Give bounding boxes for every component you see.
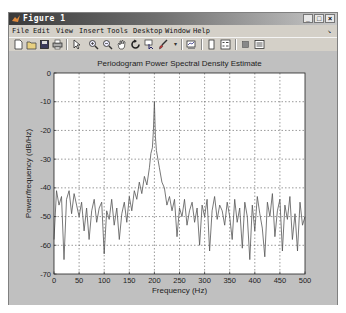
menu-desktop[interactable]: Desktop — [133, 26, 163, 36]
x-tick-label: 350 — [223, 276, 236, 285]
y-tick-label: -20 — [40, 126, 51, 135]
title-bar[interactable]: Figure 1 _ □ × — [9, 13, 337, 25]
window-controls: _ □ × — [303, 14, 335, 23]
chart-title: Periodogram Power Spectral Density Estim… — [97, 59, 262, 68]
y-axis-label: Power/frequency (dB/Hz) — [24, 128, 33, 218]
figure-window: Figure 1 _ □ × File Edit View Insert Too… — [8, 12, 338, 305]
figure-canvas: 0501001502002503003504004505000-10-20-30… — [9, 51, 337, 305]
y-tick-label: 0 — [47, 69, 51, 78]
save-disk-icon[interactable] — [39, 39, 50, 50]
window-title: Figure 1 — [23, 13, 66, 25]
x-tick-label: 400 — [249, 276, 262, 285]
axes-background[interactable] — [54, 73, 305, 274]
menu-bar: File Edit View Insert Tools Desktop Wind… — [9, 26, 337, 36]
x-tick-label: 500 — [299, 276, 312, 285]
link-plot-icon[interactable] — [186, 39, 197, 50]
minimize-button[interactable]: _ — [303, 14, 313, 23]
hand-icon[interactable] — [116, 39, 127, 50]
dock-figure-button[interactable]: ↘ — [327, 26, 331, 36]
zoom-in-icon[interactable] — [88, 39, 99, 50]
colorbar-icon[interactable] — [206, 39, 217, 50]
matlab-logo-icon — [12, 15, 20, 23]
menu-tools[interactable]: Tools — [107, 26, 128, 36]
close-button[interactable]: × — [325, 14, 335, 23]
menu-insert[interactable]: Insert — [79, 26, 104, 36]
maximize-button[interactable]: □ — [314, 14, 324, 23]
y-tick-label: -70 — [40, 270, 51, 279]
menu-help[interactable]: Help — [193, 26, 210, 36]
show-tools-icon[interactable] — [254, 39, 265, 50]
arrow-pointer-icon[interactable] — [71, 39, 82, 50]
x-tick-label: 150 — [123, 276, 136, 285]
brush-icon[interactable] — [158, 39, 169, 50]
x-tick-label: 200 — [148, 276, 161, 285]
x-axis-label: Frequency (Hz) — [152, 286, 207, 295]
y-tick-label: -10 — [40, 97, 51, 106]
toolbar-separator — [66, 39, 68, 50]
rotate-icon[interactable] — [130, 39, 141, 50]
toolbar-separator — [201, 39, 203, 50]
x-tick-label: 300 — [198, 276, 211, 285]
menu-file[interactable]: File — [12, 26, 29, 36]
hide-tools-icon[interactable] — [240, 39, 251, 50]
zoom-out-icon[interactable] — [102, 39, 113, 50]
figure-toolbar: ▾ — [9, 37, 337, 52]
x-tick-label: 0 — [52, 276, 56, 285]
menu-view[interactable]: View — [56, 26, 73, 36]
psd-chart[interactable]: 0501001502002503003504004505000-10-20-30… — [9, 51, 337, 305]
menu-window[interactable]: Window — [165, 26, 190, 36]
menu-edit[interactable]: Edit — [33, 26, 50, 36]
x-tick-label: 450 — [274, 276, 287, 285]
toolbar-separator — [181, 39, 183, 50]
open-folder-icon[interactable] — [26, 39, 37, 50]
new-file-icon[interactable] — [13, 39, 24, 50]
toolbar-separator — [235, 39, 237, 50]
x-tick-label: 250 — [173, 276, 186, 285]
y-tick-label: -40 — [40, 183, 51, 192]
y-tick-label: -30 — [40, 155, 51, 164]
printer-icon[interactable] — [52, 39, 63, 50]
x-tick-label: 100 — [98, 276, 111, 285]
data-cursor-icon[interactable] — [144, 39, 155, 50]
y-tick-label: -50 — [40, 212, 51, 221]
brush-dropdown-arrow-icon[interactable]: ▾ — [170, 39, 181, 50]
legend-icon[interactable] — [220, 39, 231, 50]
x-tick-label: 50 — [75, 276, 83, 285]
y-tick-label: -60 — [40, 241, 51, 250]
